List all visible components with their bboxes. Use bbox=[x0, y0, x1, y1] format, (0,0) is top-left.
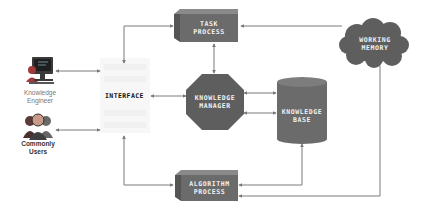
knowledge-engineer-label-line1: Knowledge bbox=[16, 89, 64, 97]
algorithm-process-label-line2: PROCESS bbox=[181, 188, 238, 196]
knowledge-manager-label: KNOWLEDGE MANAGER bbox=[186, 94, 244, 110]
commonly-users-label: Commonly Users bbox=[14, 140, 62, 156]
knowledge-manager-label-line2: MANAGER bbox=[186, 102, 244, 110]
edge-base-algorithm bbox=[239, 144, 302, 185]
working-memory-label-line1: WORKING bbox=[346, 36, 404, 44]
working-memory-label: WORKING MEMORY bbox=[346, 36, 404, 52]
knowledge-base-label-line1: KNOWLEDGE bbox=[274, 108, 330, 116]
algorithm-process-label: ALGORITHM PROCESS bbox=[181, 180, 238, 196]
working-memory-label-line2: MEMORY bbox=[346, 44, 404, 52]
knowledge-engineer-label-line2: Engineer bbox=[16, 97, 64, 105]
task-process-label: TASK PROCESS bbox=[180, 20, 238, 36]
user-group-icon bbox=[23, 114, 53, 140]
computer-workstation-icon bbox=[26, 57, 54, 84]
task-process-label-line2: PROCESS bbox=[180, 28, 238, 36]
commonly-users-label-line1: Commonly bbox=[14, 140, 62, 148]
edge-interface-algorithm bbox=[124, 136, 173, 185]
commonly-users-label-line2: Users bbox=[14, 148, 62, 156]
interface-label: INTERFACE bbox=[105, 92, 144, 100]
algorithm-process-label-line1: ALGORITHM bbox=[181, 180, 238, 188]
knowledge-base-label: KNOWLEDGE BASE bbox=[274, 108, 330, 124]
knowledge-base-label-line2: BASE bbox=[274, 116, 330, 124]
edge-interface-task bbox=[124, 26, 173, 63]
knowledge-manager-label-line1: KNOWLEDGE bbox=[186, 94, 244, 102]
knowledge-engineer-label: Knowledge Engineer bbox=[16, 89, 64, 105]
task-process-label-line1: TASK bbox=[180, 20, 238, 28]
